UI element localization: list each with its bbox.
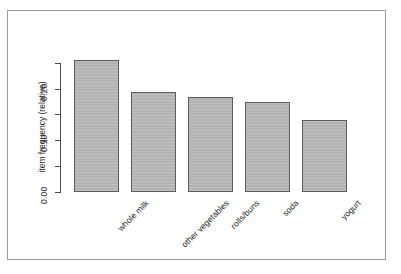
bar-rolls-buns[interactable] <box>188 97 233 192</box>
x-label-whole-milk: whole milk <box>116 198 151 233</box>
x-label-soda: soda <box>280 198 300 218</box>
plot-area: item frequency (relative) 0.00 0.10 0.20… <box>0 0 401 274</box>
x-label-other-vegetables: other vegetables <box>179 198 231 250</box>
y-tick-0 <box>55 192 60 193</box>
y-tick-3 <box>55 114 60 115</box>
x-label-yogurt: yogurt <box>339 198 363 222</box>
chart-screenshot: item frequency (relative) 0.00 0.10 0.20… <box>0 0 401 274</box>
y-tick-1 <box>55 166 60 167</box>
y-tick-label-0.10: 0.10 <box>39 130 49 152</box>
bar-yogurt[interactable] <box>302 120 347 192</box>
bar-soda[interactable] <box>245 102 290 192</box>
y-tick-label-0.00: 0.00 <box>39 182 49 204</box>
y-tick-label-0.20: 0.20 <box>39 79 49 101</box>
y-axis-spine <box>60 63 61 193</box>
bar-whole-milk[interactable] <box>74 60 119 192</box>
bar-other-vegetables[interactable] <box>131 92 176 192</box>
y-tick-4 <box>55 89 60 90</box>
y-tick-5 <box>55 63 60 64</box>
x-label-rolls-buns: rolls/buns <box>229 198 262 231</box>
y-tick-2 <box>55 140 60 141</box>
